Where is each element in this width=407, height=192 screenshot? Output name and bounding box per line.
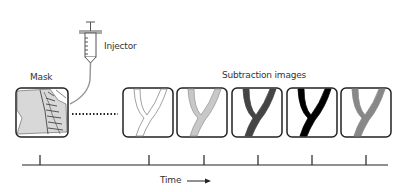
subtraction-frame (287, 88, 337, 137)
timeline (22, 155, 388, 165)
dsa-diagram (0, 0, 407, 192)
subtraction-frame (232, 88, 282, 137)
injector-label: Injector (104, 41, 136, 51)
subtraction-images-label: Subtraction images (222, 70, 306, 80)
syringe-icon (70, 22, 102, 104)
arrow-right-icon (187, 179, 211, 184)
subtraction-frame (177, 88, 227, 137)
subtraction-frame (123, 88, 173, 137)
mask-frame (16, 88, 68, 137)
time-label: Time (160, 175, 181, 185)
subtraction-frame (341, 88, 391, 137)
mask-label: Mask (30, 72, 52, 82)
